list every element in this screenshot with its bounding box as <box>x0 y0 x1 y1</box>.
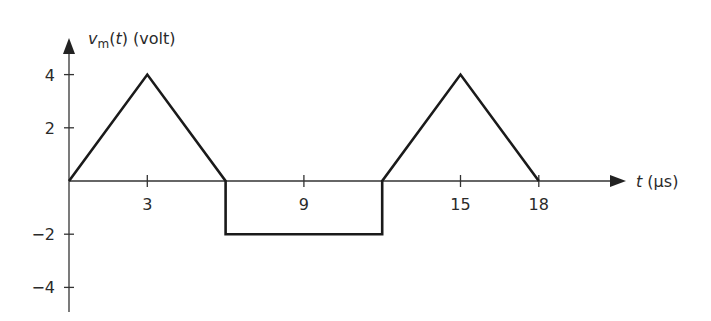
y-tick-label: −4 <box>31 278 55 297</box>
x-tick-label: 9 <box>299 195 309 214</box>
x-tick-label: 3 <box>142 195 152 214</box>
y-tick-label: 4 <box>45 66 55 85</box>
y-axis-arrow-icon <box>63 38 75 54</box>
x-axis-label: t (μs) <box>636 172 678 191</box>
x-tick-label: 18 <box>529 195 549 214</box>
waveform-chart: 39151842−2−4 vm(t) (volt) t (μs) <box>0 0 711 321</box>
y-tick-label: −2 <box>31 225 55 244</box>
y-axis-label: vm(t) (volt) <box>88 29 176 51</box>
y-tick-label: 2 <box>45 119 55 138</box>
x-axis-arrow-icon <box>610 175 626 187</box>
x-tick-label: 15 <box>450 195 470 214</box>
